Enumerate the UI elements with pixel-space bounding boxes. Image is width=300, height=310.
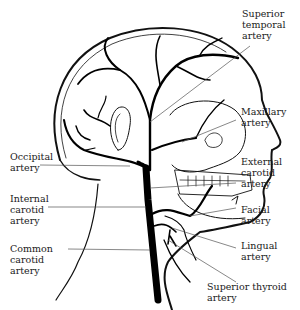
leader-maxillary [182,120,236,142]
leader-superior-thyroid [168,240,236,282]
leader-common-carotid [68,249,150,250]
leader-external-carotid [150,183,236,188]
label-lingual-artery: Lingual artery [241,240,277,262]
neck-back [60,160,100,180]
label-internal-carotid-artery: Internal carotid artery [10,193,49,226]
leader-occipital [40,165,130,166]
label-superior-thyroid-artery: Superior thyroid artery [207,281,287,303]
maxillary-artery [152,138,196,150]
artery-diagram: Superior temporal artery Maxillary arter… [0,0,300,310]
label-common-carotid-artery: Common carotid artery [10,243,53,276]
label-maxillary-artery: Maxillary artery [241,106,286,128]
label-occipital-artery: Occipital artery [10,151,53,173]
label-facial-artery: Facial artery [241,204,271,226]
label-external-carotid-artery: External carotid artery [241,156,282,189]
ear [111,107,131,150]
label-superior-temporal-artery: Superior temporal artery [242,8,286,41]
